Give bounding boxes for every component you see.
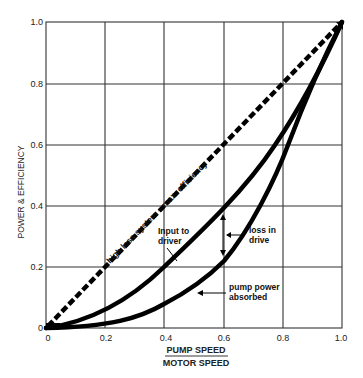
x-tick: 0	[45, 333, 50, 343]
annotation-high-loss: high loss system – max. efficiency	[104, 159, 209, 266]
svg-text:loss in: loss in	[249, 225, 276, 235]
annotation-input-to-driver: Input to driver	[158, 226, 189, 261]
x-axis-denominator: MOTOR SPEED	[163, 358, 230, 368]
x-axis-ticks: 0 0.2 0.4 0.6 0.8 1.0	[45, 333, 347, 343]
y-axis-title: POWER & EFFICIENCY	[16, 145, 26, 238]
x-tick: 0.8	[277, 333, 290, 343]
y-tick: 0.8	[30, 79, 43, 89]
svg-text:absorbed: absorbed	[229, 292, 267, 302]
x-axis-numerator: PUMP SPEED	[167, 345, 226, 355]
y-tick: 0.6	[30, 140, 43, 150]
svg-text:Input to: Input to	[158, 226, 189, 236]
svg-text:drive: drive	[249, 235, 270, 245]
origin-marker	[46, 323, 60, 329]
svg-text:pump power: pump power	[229, 282, 280, 292]
annotation-pump-power-absorbed: pump power absorbed	[197, 282, 280, 302]
x-axis-title: PUMP SPEED MOTOR SPEED	[163, 345, 230, 368]
x-tick: 0.4	[160, 333, 173, 343]
y-tick: 0.4	[30, 201, 43, 211]
y-tick: 1.0	[30, 17, 43, 27]
y-tick: 0.2	[30, 262, 43, 272]
svg-text:driver: driver	[158, 236, 182, 246]
x-tick: 0.6	[218, 333, 231, 343]
y-tick: 0	[38, 323, 43, 333]
power-efficiency-chart: 1.0 0.8 0.6 0.4 0.2 0 0 0.2 0.4 0.6 0.8 …	[0, 0, 363, 378]
x-tick: 0.2	[100, 333, 113, 343]
annotation-loss-in-drive: loss in drive	[220, 214, 276, 256]
x-tick: 1.0	[335, 333, 348, 343]
y-axis-ticks: 1.0 0.8 0.6 0.4 0.2 0	[30, 17, 43, 333]
